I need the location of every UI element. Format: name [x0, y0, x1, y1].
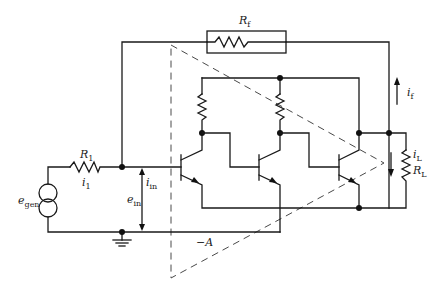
label-ein: ein	[127, 193, 141, 208]
label-egen: egen	[18, 194, 40, 209]
label-i1: i1	[82, 176, 91, 191]
label-if: if	[407, 86, 415, 101]
if-arrow-icon	[394, 77, 400, 104]
collector-resistor-1-icon	[198, 94, 206, 133]
input-network	[39, 162, 280, 246]
label-rf: Rf	[238, 14, 251, 29]
collector-resistor-2-icon	[276, 94, 284, 133]
label-il: iL	[413, 148, 423, 163]
collector-rail	[198, 75, 359, 133]
current-source-icon	[39, 184, 57, 217]
feedback-resistor-icon	[207, 31, 286, 53]
npn-transistor-icon	[339, 133, 359, 208]
label-r1: R1	[79, 148, 93, 163]
label-rl: RL	[412, 164, 427, 179]
circuit-diagram: Rf if R1 i1 egen iin ein	[0, 0, 443, 294]
label-gain: −A	[196, 236, 213, 249]
feedback-path: Rf	[122, 14, 389, 208]
npn-transistor-icon	[181, 130, 359, 208]
label-iin: iin	[146, 176, 157, 191]
output-network	[356, 130, 410, 211]
load-resistor-icon	[359, 150, 410, 208]
npn-transistor-icon	[259, 130, 339, 232]
